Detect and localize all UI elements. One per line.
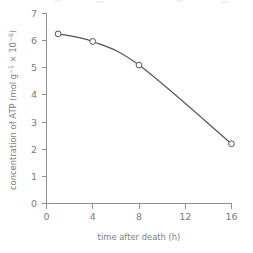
chart-figure: 0 1 2 3 4 5 6 7 0 4 8 12 16 time after d…: [0, 0, 253, 253]
data-point-marker: [229, 141, 235, 147]
y-tick-label: 6: [31, 35, 37, 46]
data-series-line-main: [58, 34, 231, 144]
y-axis-ticks: [42, 14, 47, 204]
y-tick-label: 0: [31, 198, 37, 209]
data-point-marker: [136, 62, 142, 68]
y-tick-label: 3: [31, 117, 37, 128]
y-tick-label: 7: [31, 8, 37, 19]
y-tick-label: 4: [31, 89, 37, 100]
y-axis-tick-labels: 0 1 2 3 4 5 6 7: [31, 8, 37, 209]
y-axis-title-tail: ): [8, 30, 18, 33]
x-axis-title: time after death (h): [98, 232, 181, 242]
x-axis-ticks: [47, 204, 232, 209]
data-point-marker: [55, 31, 61, 37]
x-tick-label: 8: [136, 211, 142, 222]
y-tick-label: 1: [31, 171, 37, 182]
x-axis-tick-labels: 0 4 8 12 16: [43, 211, 237, 222]
y-axis-title: concentration of ATP (mol g−1 × 10−6): [7, 30, 18, 190]
x-tick-label: 16: [225, 211, 237, 222]
x-tick-label: 4: [90, 211, 96, 222]
x-tick-label: 0: [43, 211, 49, 222]
y-axis-title-sup-1: −1: [7, 65, 14, 74]
y-axis-title-sup-2: −6: [7, 33, 14, 42]
y-axis-title-mid: × 10: [8, 42, 18, 65]
atp-concentration-line-chart: 0 1 2 3 4 5 6 7 0 4 8 12 16 time after d…: [0, 0, 253, 253]
y-tick-label: 2: [31, 144, 37, 155]
y-axis-title-lead: concentration of ATP (mol g: [8, 74, 18, 190]
y-tick-label: 5: [31, 62, 37, 73]
x-tick-label: 12: [179, 211, 191, 222]
data-point-marker: [90, 39, 96, 45]
data-point-markers: [55, 31, 234, 147]
top-edge-artifacts: [55, 0, 229, 3]
